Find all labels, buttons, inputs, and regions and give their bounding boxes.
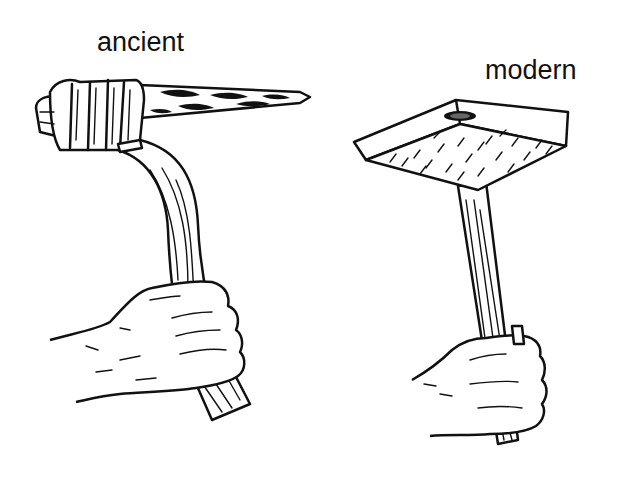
ancient-stone-blade [140,85,310,118]
modern-hand [412,326,547,436]
ancient-axe [36,80,310,420]
modern-hammer [354,100,568,444]
illustration-canvas [0,0,626,481]
ancient-hand [50,281,244,402]
ancient-binding [36,80,144,152]
modern-hammer-head [354,100,568,190]
